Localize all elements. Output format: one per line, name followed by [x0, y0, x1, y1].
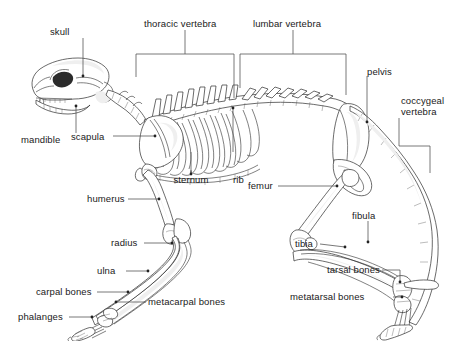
label-phalanges: phalanges [18, 311, 63, 322]
label-radius: radius [111, 237, 137, 248]
label-coccygeal-vertebra-line1: coccygeal [401, 95, 444, 106]
leader-ulna [126, 270, 149, 273]
label-femur: femur [248, 180, 273, 191]
leader-fibula [367, 221, 370, 243]
label-skull: skull [50, 26, 70, 37]
label-metatarsal-bones: metatarsal bones [290, 291, 364, 302]
leader-rib [232, 107, 235, 152]
label-sternum: sternum [173, 174, 208, 185]
leader-skull [82, 38, 85, 77]
leader-mandible [75, 105, 78, 133]
leader-pelvis [366, 76, 369, 123]
bracket-coccygeal-vertebra [399, 118, 430, 173]
label-ulna: ulna [97, 265, 115, 276]
leader-metacarpal-bones [115, 301, 146, 304]
skeleton-diagram: skull mandible scapula thoracic vertebra… [0, 0, 475, 341]
label-tarsal-bones: tarsal bones [327, 264, 380, 275]
leader-scapula [113, 135, 156, 138]
label-mandible: mandible [21, 134, 60, 145]
label-coccygeal-vertebra-line2: vertebra [401, 106, 437, 117]
bracket-lumbar-vertebra [240, 30, 346, 95]
label-metacarpal-bones: metacarpal bones [148, 296, 225, 307]
leader-humerus [128, 198, 160, 201]
label-pelvis: pelvis [367, 66, 392, 77]
label-tibia: tibia [295, 238, 313, 249]
label-fibula: fibula [352, 210, 375, 221]
leader-femur [278, 185, 338, 188]
leader-tibia [320, 244, 346, 248]
label-carpal-bones: carpal bones [36, 286, 92, 297]
label-thoracic-vertebra: thoracic vertebra [144, 18, 216, 29]
leader-metatarsal-bones [393, 296, 403, 299]
leader-radius [144, 242, 173, 245]
bracket-thoracic-vertebra [136, 30, 234, 98]
leader-phalanges [69, 316, 93, 319]
label-coccygeal-vertebra: coccygeal vertebra [401, 95, 463, 117]
label-humerus: humerus [87, 193, 125, 204]
leader-tarsal-bones [382, 270, 401, 283]
label-scapula: scapula [71, 131, 104, 142]
label-rib: rib [233, 174, 244, 185]
leader-sternum [190, 152, 193, 175]
leader-carpal-bones [97, 291, 129, 294]
label-lumbar-vertebra: lumbar vertebra [253, 18, 321, 29]
